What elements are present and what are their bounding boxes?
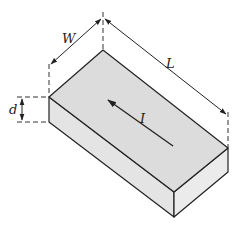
width-label: W (62, 31, 77, 46)
current-label: I (139, 111, 146, 126)
length-label: L (165, 56, 175, 71)
slab-diagram: W L d I (0, 0, 241, 229)
thickness-dimension: d (9, 97, 49, 122)
slab-box (49, 50, 228, 217)
thickness-label: d (9, 102, 17, 117)
